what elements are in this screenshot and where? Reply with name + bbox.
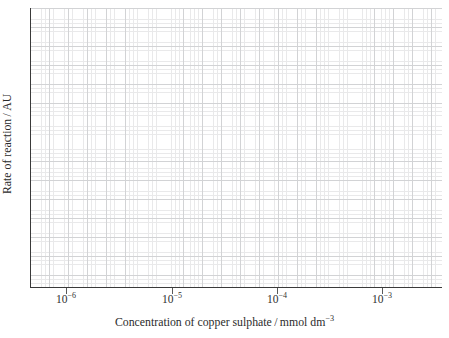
x-tick-exponent: −3 (383, 291, 392, 300)
x-tick-exponent: −6 (67, 291, 76, 300)
x-tick-mantissa: 10 (56, 293, 68, 305)
x-tick-mantissa: 10 (372, 293, 384, 305)
x-tick-exponent: −5 (173, 291, 182, 300)
x-axis-tick-label: 10−3 (372, 294, 392, 306)
x-tick-exponent: −4 (278, 291, 287, 300)
chart-figure: 10−6 10−5 10−4 10−3 Concentration of cop… (0, 0, 449, 338)
major-gridlines (30, 8, 442, 287)
x-axis-title-text: Concentration of copper sulphate / mmol … (115, 315, 325, 329)
y-axis-spine (30, 8, 31, 288)
x-axis-title: Concentration of copper sulphate / mmol … (0, 316, 449, 329)
x-axis-tick-label: 10−4 (267, 294, 287, 306)
y-axis-title: Rate of reaction / AU (2, 44, 14, 244)
x-tick-mantissa: 10 (162, 293, 174, 305)
x-axis-tick-label: 10−6 (56, 294, 76, 306)
x-tick-mantissa: 10 (267, 293, 279, 305)
plot-area (30, 8, 442, 287)
x-axis-title-exponent: −3 (325, 314, 334, 323)
x-axis-spine (30, 287, 442, 288)
x-axis-tick-label: 10−5 (162, 294, 182, 306)
